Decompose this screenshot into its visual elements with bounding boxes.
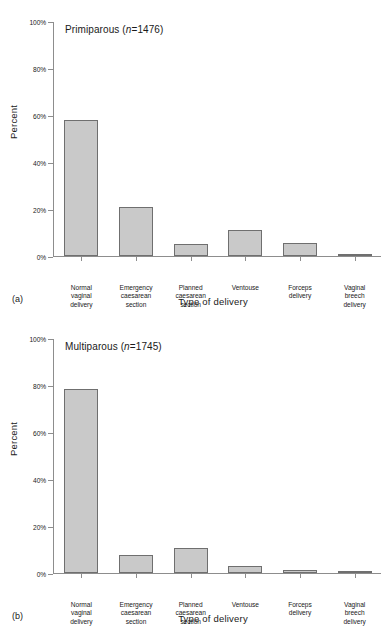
bar-slot <box>327 339 382 573</box>
x-category-label-line: Planned <box>163 601 218 609</box>
bar[interactable] <box>228 230 262 256</box>
x-tick-mark <box>245 574 246 578</box>
bar-slot <box>109 22 164 256</box>
x-category-label-line: Planned <box>163 284 218 292</box>
x-category-label-line: Emergency <box>109 601 164 609</box>
x-tick-mark <box>355 574 356 578</box>
y-axis-label-b: Percent <box>8 422 19 456</box>
x-category-label-line: Vaginal <box>327 284 382 292</box>
y-tick-mark <box>48 527 53 528</box>
bar[interactable] <box>338 254 372 256</box>
y-tick-label: 80% <box>33 66 46 73</box>
x-tick-mark <box>136 257 137 261</box>
bar[interactable] <box>228 566 262 573</box>
x-axis-line-a <box>53 256 381 257</box>
y-tick-label: 0% <box>37 571 46 578</box>
x-category-label-line: Normal <box>54 284 109 292</box>
bar[interactable] <box>174 244 208 256</box>
x-axis-label-b-text: Type of delivery <box>178 613 248 624</box>
bar-slot <box>109 339 164 573</box>
y-tick-label: 100% <box>30 19 46 26</box>
x-category-label-line: Emergency <box>109 284 164 292</box>
y-tick-label: 40% <box>33 160 46 167</box>
figure-panel-a: Percent Primiparous (n=1476) 0%20%40%60%… <box>0 0 388 318</box>
bar[interactable] <box>283 243 317 256</box>
bar[interactable] <box>119 207 153 256</box>
bar-slot <box>54 22 109 256</box>
x-axis-label-a: Type of delivery <box>0 296 388 307</box>
y-tick-mark <box>48 210 53 211</box>
y-tick-mark <box>48 116 53 117</box>
x-tick-mark <box>300 574 301 578</box>
y-tick-mark <box>48 480 53 481</box>
figure-panel-b: Percent Multiparous (n=1745) 0%20%40%60%… <box>0 317 388 635</box>
y-tick-mark <box>48 22 53 23</box>
y-tick-mark <box>48 386 53 387</box>
bar[interactable] <box>119 555 153 573</box>
plot-area-a: Primiparous (n=1476) 0%20%40%60%80%100% … <box>53 22 381 257</box>
bar-slot <box>163 339 218 573</box>
x-tick-mark <box>245 257 246 261</box>
bar[interactable] <box>174 548 208 573</box>
x-tick-mark <box>81 257 82 261</box>
bar[interactable] <box>64 120 98 256</box>
y-tick-mark <box>48 163 53 164</box>
y-tick-label: 20% <box>33 207 46 214</box>
y-tick-label: 60% <box>33 113 46 120</box>
y-tick-label: 60% <box>33 430 46 437</box>
bar-slot <box>218 22 273 256</box>
y-tick-mark <box>48 69 53 70</box>
x-category-label: Ventouse <box>218 284 273 292</box>
x-category-label-line: Ventouse <box>218 284 273 292</box>
bar-slot <box>54 339 109 573</box>
bar[interactable] <box>338 571 372 573</box>
x-category-label-line: Ventouse <box>218 601 273 609</box>
y-tick-mark <box>48 433 53 434</box>
y-axis-label-a: Percent <box>8 105 19 139</box>
bar-slot <box>273 22 328 256</box>
x-axis-label-a-text: Type of delivery <box>178 296 248 307</box>
y-tick-label: 20% <box>33 524 46 531</box>
bar-slot <box>273 339 328 573</box>
bar[interactable] <box>64 389 98 573</box>
x-tick-mark <box>300 257 301 261</box>
y-tick-label: 0% <box>37 254 46 261</box>
plot-area-b: Multiparous (n=1745) 0%20%40%60%80%100% … <box>53 339 381 574</box>
bar-slot <box>218 339 273 573</box>
bar-slot <box>327 22 382 256</box>
x-tick-mark <box>81 574 82 578</box>
x-tick-mark <box>355 257 356 261</box>
panel-tag-b: (b) <box>12 611 23 621</box>
x-tick-mark <box>191 257 192 261</box>
bar-slot <box>163 22 218 256</box>
x-category-label-line: Vaginal <box>327 601 382 609</box>
y-tick-mark <box>48 574 53 575</box>
x-category-label-line: Forceps <box>273 601 328 609</box>
x-axis-label-b: Type of delivery <box>0 613 388 624</box>
x-tick-mark <box>191 574 192 578</box>
x-axis-line-b <box>53 573 381 574</box>
x-category-label-line: Normal <box>54 601 109 609</box>
y-tick-mark <box>48 257 53 258</box>
y-tick-label: 40% <box>33 477 46 484</box>
y-tick-label: 100% <box>30 336 46 343</box>
bar[interactable] <box>283 570 317 573</box>
bar-series-b <box>54 339 381 573</box>
x-category-label: Ventouse <box>218 601 273 609</box>
y-tick-mark <box>48 339 53 340</box>
y-tick-label: 80% <box>33 383 46 390</box>
panel-tag-a: (a) <box>12 294 23 304</box>
x-category-label-line: Forceps <box>273 284 328 292</box>
bar-series-a <box>54 22 381 256</box>
x-tick-mark <box>136 574 137 578</box>
